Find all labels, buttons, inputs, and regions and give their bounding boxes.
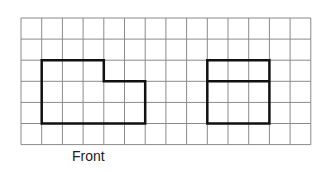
side-view-outline [207, 60, 269, 123]
front-view-label: Front [72, 148, 105, 164]
grid-paper [0, 0, 326, 172]
view-shapes [42, 60, 270, 123]
front-view-outline [42, 60, 146, 123]
orthographic-views-diagram: Front Side [0, 0, 326, 172]
